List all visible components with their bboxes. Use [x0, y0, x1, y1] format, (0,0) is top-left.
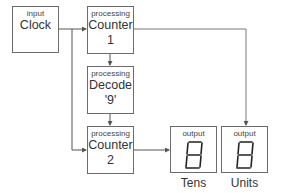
seven-segment-display-icon [171, 138, 216, 172]
counter1-processing-node: processing Counter 1 [87, 6, 134, 54]
node-kind-label: output [222, 129, 267, 138]
units-output-node: output [221, 126, 268, 173]
node-name-line2: 1 [88, 33, 133, 48]
node-name: Counter [88, 18, 133, 33]
tens-output-node: output [170, 126, 217, 173]
units-caption: Units [221, 176, 268, 190]
decode-processing-node: processing Decode '9' [87, 66, 134, 114]
node-kind-label: processing [88, 9, 133, 18]
seven-segment-display-icon [222, 138, 267, 172]
node-name-line2: 2 [88, 153, 133, 168]
node-name: Clock [13, 18, 58, 33]
node-kind-label: input [13, 9, 58, 18]
counter2-processing-node: processing Counter 2 [87, 126, 134, 174]
node-name: Decode [88, 78, 133, 93]
node-kind-label: output [171, 129, 216, 138]
node-name-line2: '9' [88, 93, 133, 108]
clock-input-node: input Clock [12, 6, 59, 53]
node-kind-label: processing [88, 129, 133, 138]
node-name: Counter [88, 138, 133, 153]
node-kind-label: processing [88, 69, 133, 78]
tens-caption: Tens [170, 176, 217, 190]
